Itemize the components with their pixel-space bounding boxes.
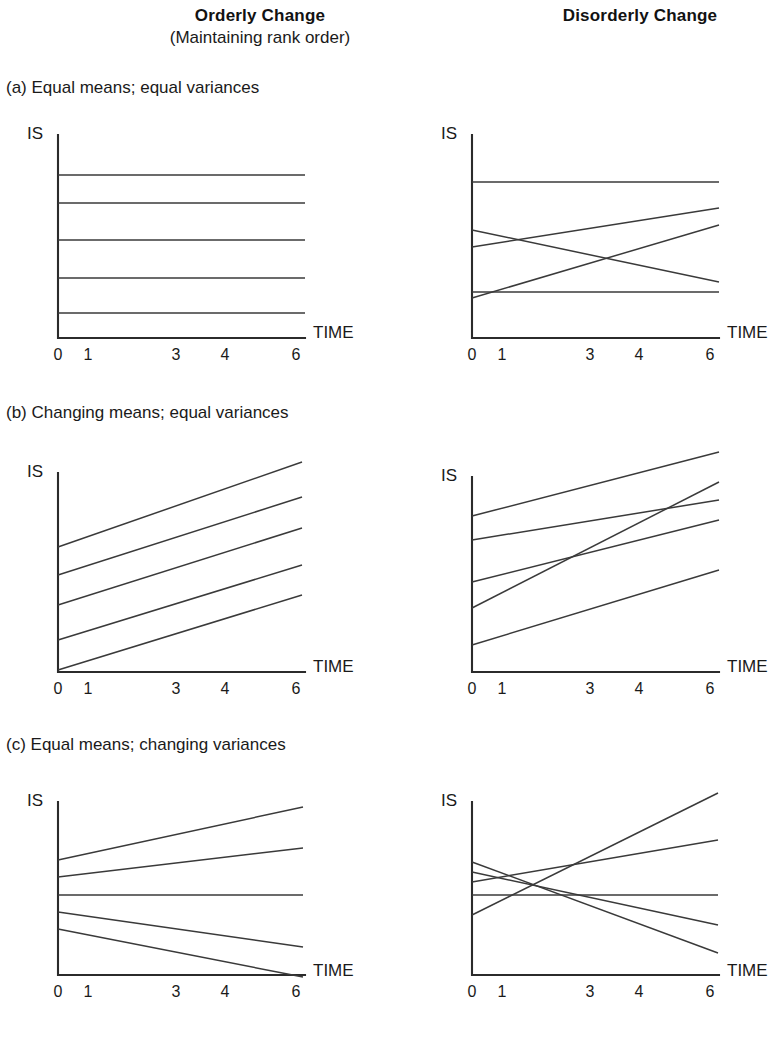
series-line <box>472 208 719 247</box>
y-axis-label: IS <box>27 791 43 811</box>
y-axis-label: IS <box>441 466 457 486</box>
y-axis-label: IS <box>441 124 457 144</box>
x-tick: 3 <box>168 346 184 364</box>
chart-b-orderly: IS TIME 0 1 3 4 6 <box>0 440 400 690</box>
x-tick: 3 <box>168 680 184 698</box>
series-line <box>472 482 719 608</box>
axis-lines <box>58 473 305 672</box>
x-tick: 4 <box>217 680 233 698</box>
y-axis-label: IS <box>27 124 43 144</box>
series-line <box>58 528 302 605</box>
x-axis-label: TIME <box>727 961 768 981</box>
x-tick: 1 <box>80 983 96 1001</box>
series-line <box>58 595 302 670</box>
series-line <box>472 570 719 645</box>
x-tick: 4 <box>631 346 647 364</box>
chart-b-disorderly: IS TIME 0 1 3 4 6 <box>415 440 781 690</box>
x-tick: 1 <box>494 680 510 698</box>
chart-a-disorderly: IS TIME 0 1 3 4 6 <box>415 120 781 370</box>
x-tick: 1 <box>494 346 510 364</box>
figure-root: Orderly Change (Maintaining rank order) … <box>0 0 781 1040</box>
series-line <box>58 462 302 547</box>
x-tick: 0 <box>464 346 480 364</box>
x-tick: 0 <box>464 680 480 698</box>
x-tick: 3 <box>582 680 598 698</box>
x-tick: 1 <box>494 983 510 1001</box>
x-tick: 6 <box>702 983 718 1001</box>
series-line <box>472 793 718 915</box>
x-tick: 4 <box>217 346 233 364</box>
x-axis-label: TIME <box>727 657 768 677</box>
chart-c-disorderly: IS TIME 0 1 3 4 6 <box>415 775 781 1030</box>
x-tick: 1 <box>80 680 96 698</box>
series-line <box>58 497 302 575</box>
panel-caption-b: (b) Changing means; equal variances <box>6 403 289 423</box>
series-line <box>472 520 719 582</box>
x-tick: 0 <box>50 346 66 364</box>
x-tick: 1 <box>80 346 96 364</box>
axis-lines <box>58 802 305 975</box>
x-axis-label: TIME <box>727 323 768 343</box>
column-heading-disorderly: Disorderly Change <box>490 6 781 26</box>
series-line <box>472 840 718 882</box>
series-line <box>472 225 719 298</box>
x-tick: 4 <box>631 983 647 1001</box>
series-line <box>58 929 303 977</box>
series-line <box>58 912 303 947</box>
x-tick: 6 <box>288 346 304 364</box>
x-axis-label: TIME <box>313 323 354 343</box>
x-tick: 4 <box>217 983 233 1001</box>
x-tick: 4 <box>631 680 647 698</box>
chart-a-orderly: IS TIME 0 1 3 4 6 <box>0 120 400 370</box>
column-subheading-orderly: (Maintaining rank order) <box>110 28 410 48</box>
x-tick: 6 <box>288 983 304 1001</box>
axis-lines <box>472 802 719 975</box>
series-line <box>58 565 302 640</box>
series-line <box>472 872 718 925</box>
x-axis-label: TIME <box>313 657 354 677</box>
panel-caption-c: (c) Equal means; changing variances <box>6 735 286 755</box>
x-tick: 0 <box>50 680 66 698</box>
panel-caption-a: (a) Equal means; equal variances <box>6 78 259 98</box>
x-tick: 0 <box>464 983 480 1001</box>
x-tick: 0 <box>50 983 66 1001</box>
chart-c-orderly: IS TIME 0 1 3 4 6 <box>0 775 400 1030</box>
axis-lines <box>58 135 305 338</box>
x-tick: 3 <box>582 983 598 1001</box>
x-tick: 3 <box>168 983 184 1001</box>
x-tick: 3 <box>582 346 598 364</box>
x-axis-label: TIME <box>313 961 354 981</box>
x-tick: 6 <box>288 680 304 698</box>
x-tick: 6 <box>702 346 718 364</box>
series-line <box>472 230 719 282</box>
y-axis-label: IS <box>441 791 457 811</box>
column-heading-orderly: Orderly Change <box>110 6 410 26</box>
x-tick: 6 <box>702 680 718 698</box>
y-axis-label: IS <box>27 462 43 482</box>
